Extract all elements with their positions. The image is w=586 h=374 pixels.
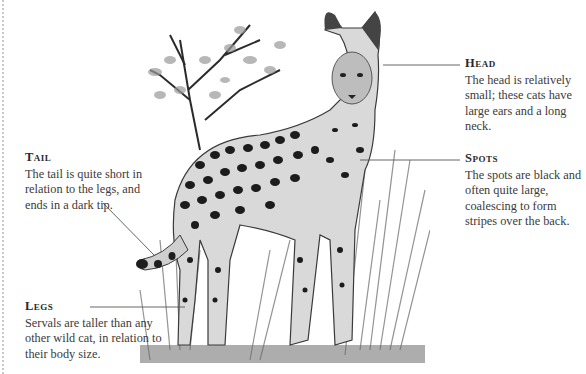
tail-tip xyxy=(136,259,148,269)
callout-legs-title: Legs xyxy=(25,299,165,315)
callout-tail-body: The tail is quite short in relation to t… xyxy=(25,167,155,214)
serval-illustration xyxy=(130,0,430,374)
bush-branches xyxy=(150,25,280,150)
callout-head-body: The head is relatively small; these cats… xyxy=(465,73,586,135)
callout-spots-body: The spots are black and often quite larg… xyxy=(465,168,583,230)
callout-tail: Tail The tail is quite short in relation… xyxy=(25,150,155,213)
callout-tail-title: Tail xyxy=(25,150,155,166)
callout-legs: Legs Servals are taller than any other w… xyxy=(25,299,165,362)
ground xyxy=(140,345,425,363)
callout-spots-title: Spots xyxy=(465,151,583,167)
callout-legs-body: Servals are taller than any other wild c… xyxy=(25,316,165,363)
callout-head: Head The head is relatively small; these… xyxy=(465,56,586,135)
callout-head-title: Head xyxy=(465,56,586,72)
callout-spots: Spots The spots are black and often quit… xyxy=(465,151,583,230)
left-ear xyxy=(324,12,342,30)
page-edge-dotted-border xyxy=(2,0,4,374)
